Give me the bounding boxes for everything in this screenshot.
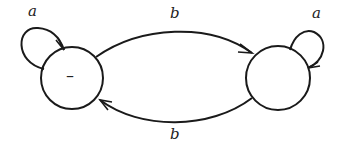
self-loop-s0 bbox=[21, 28, 64, 69]
arrowhead-icon bbox=[308, 62, 320, 68]
edge-label-s0-s1: b bbox=[170, 6, 180, 21]
state-s1 bbox=[246, 46, 310, 110]
state-label-s0: – bbox=[66, 68, 74, 84]
edge-label-s1-s0: b bbox=[170, 127, 180, 142]
edge-s1-s0 bbox=[100, 98, 252, 122]
edge-s0-s1 bbox=[96, 32, 252, 57]
edge-label-s1-loop: a bbox=[312, 6, 321, 21]
edge-label-s0-loop: a bbox=[28, 4, 37, 19]
